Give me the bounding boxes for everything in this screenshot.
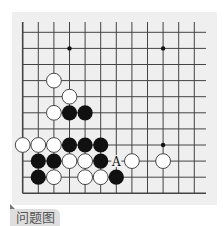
black-stone xyxy=(93,137,108,152)
black-stone xyxy=(62,105,77,120)
white-stone xyxy=(78,170,93,185)
figure-caption: 问题图 xyxy=(10,209,60,226)
black-stone xyxy=(31,170,46,185)
white-stone xyxy=(15,138,30,153)
black-stone xyxy=(78,105,93,120)
board-labels: A xyxy=(111,155,121,169)
star-point xyxy=(161,143,165,147)
black-stone xyxy=(109,170,124,185)
go-board: A xyxy=(0,0,224,226)
white-stone xyxy=(47,138,62,153)
white-stone xyxy=(47,73,62,88)
white-stone xyxy=(62,89,77,104)
point-label-a: A xyxy=(111,155,121,169)
white-stone xyxy=(124,154,139,169)
white-stone xyxy=(156,154,171,169)
star-point xyxy=(161,46,165,50)
black-stone xyxy=(31,154,46,169)
white-stone xyxy=(47,170,62,185)
white-stone xyxy=(62,154,77,169)
black-stone xyxy=(62,137,77,152)
black-stone xyxy=(93,154,108,169)
black-stone xyxy=(46,154,61,169)
white-stone xyxy=(31,138,46,153)
white-stone xyxy=(93,170,108,185)
white-stone xyxy=(78,154,93,169)
star-point xyxy=(67,46,71,50)
black-stone xyxy=(78,137,93,152)
white-stone xyxy=(47,105,62,120)
